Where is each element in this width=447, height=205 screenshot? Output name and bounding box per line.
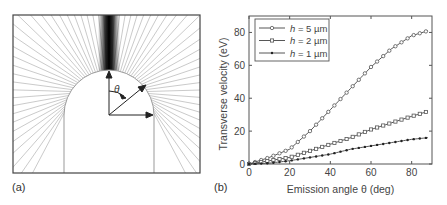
y-tick-label: 60 [234,60,246,71]
data-marker [297,158,299,160]
field-line [0,96,68,125]
field-line [0,6,78,82]
data-marker [260,162,262,164]
data-marker [327,110,330,113]
data-marker [333,141,336,144]
y-tick-label: 80 [234,27,246,38]
field-line [6,0,89,75]
data-marker [376,126,379,129]
theta-symbol: θ [114,84,120,95]
data-marker [272,154,275,157]
field-line [135,0,210,78]
data-marker [375,60,378,63]
field-line [0,52,73,88]
y-tick-label: 40 [234,93,246,104]
x-axis-label: Emission angle θ (deg) [287,183,394,195]
data-marker [272,161,274,163]
data-marker [327,153,329,155]
data-marker [400,41,403,44]
data-marker [278,152,281,155]
field-line [149,94,210,106]
plot-frame [249,16,432,164]
series-line [249,111,428,164]
data-marker [382,54,385,57]
field-line [0,109,64,205]
legend-marker [270,39,273,42]
data-marker [253,160,256,163]
y-tick-label: 0 [239,159,245,170]
field-line [0,0,81,80]
data-marker [302,135,305,138]
data-marker [290,155,293,158]
data-marker [260,158,263,161]
data-marker [314,123,317,126]
data-marker [345,149,347,151]
data-marker [339,150,341,152]
x-tick-label: 80 [406,167,418,178]
legend-marker [271,52,273,54]
x-tick-label: 60 [365,167,377,178]
data-marker [296,153,299,156]
data-marker [419,137,421,139]
data-marker [418,112,421,115]
data-marker [363,130,366,133]
legend-label: h = 1 µm [290,48,328,59]
data-marker [388,142,390,144]
data-marker [333,104,336,107]
data-marker [321,154,323,156]
data-marker [406,37,409,40]
data-marker [394,45,397,48]
data-marker [370,145,372,147]
data-marker [376,144,378,146]
data-marker [315,147,318,150]
x-tick-label: 40 [325,167,337,178]
series-2 [248,137,428,166]
data-marker [412,114,415,117]
data-marker [406,116,409,119]
data-marker [284,149,287,152]
field-line [42,0,96,72]
series-line [249,138,428,164]
data-marker [309,156,311,158]
legend-marker [270,26,273,29]
panel-b-label: (b) [214,181,227,193]
data-marker [425,137,427,139]
series-1 [247,110,428,165]
dense-field-band [98,15,120,71]
field-line [0,69,72,89]
x-tick-label: 20 [284,167,296,178]
data-marker [266,159,269,162]
data-marker [278,161,280,163]
series-0 [247,30,428,166]
panel-a-field-diagram: θ [0,0,210,205]
panel-a-label: (a) [12,181,25,193]
field-line [0,113,64,205]
field-line [30,0,94,73]
y-axis-label: Transverse velocity (eV) [217,38,229,151]
data-marker [254,163,256,165]
data-marker [248,163,250,165]
field-line [0,21,76,85]
data-marker [369,128,372,131]
data-marker [284,156,287,159]
data-marker [394,141,396,143]
field-line [123,0,177,72]
data-marker [369,65,372,68]
data-marker [266,156,269,159]
field-line [152,102,210,183]
data-marker [254,161,257,164]
field-line [154,113,210,205]
field-line [125,0,189,73]
data-marker [296,140,299,143]
data-marker [247,162,250,165]
data-marker [345,137,348,140]
data-marker [321,117,324,120]
data-marker [351,85,354,88]
field-line [153,106,210,205]
field-line [129,0,210,75]
field-line [0,111,64,205]
data-marker [308,149,311,152]
data-marker [413,138,415,140]
x-tick-label: 0 [246,167,252,178]
data-marker [345,91,348,94]
